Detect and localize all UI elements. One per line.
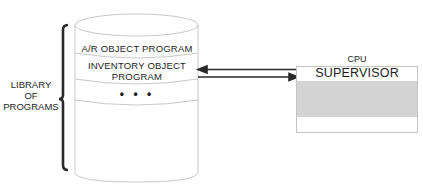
diagram-canvas (0, 0, 423, 191)
cpu-shaded-region (297, 81, 417, 117)
more-programs-ellipsis: • • • (76, 88, 198, 102)
library-label-line-3: PROGRAMS (0, 102, 62, 113)
inventory-object-program-section: INVENTORY OBJECT PROGRAM (76, 61, 198, 83)
connection-arrows (198, 66, 298, 81)
cpu-title: CPU (296, 54, 418, 64)
ar-object-program-section: A/R OBJECT PROGRAM (76, 44, 198, 55)
inventory-label-line-2: PROGRAM (76, 72, 198, 83)
library-of-programs-label: LIBRARY OF PROGRAMS (0, 80, 62, 113)
supervisor-label: SUPERVISOR (297, 66, 417, 80)
